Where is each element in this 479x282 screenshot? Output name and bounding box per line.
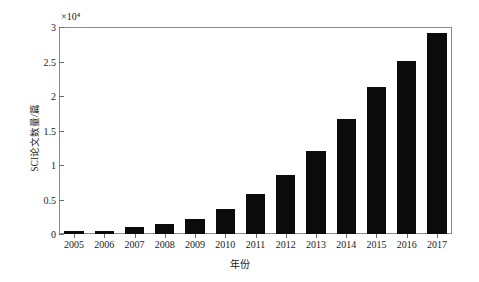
x-axis-tick-mark [104,234,105,238]
y-axis-tick-label: 0 [16,229,56,240]
x-axis-tick-mark [437,234,438,238]
x-axis-tick-mark [225,234,226,238]
bar [155,224,174,234]
x-axis-tick-mark [376,234,377,238]
bar [427,33,446,234]
x-axis-tick-label: 2017 [417,239,457,250]
bar [246,194,265,234]
y-axis-title: SCI论文数量/篇 [27,78,41,198]
bar [397,61,416,234]
chart-figure: ×10⁴ 00.511.522.53 SCI论文数量/篇 年份 20052006… [0,0,479,282]
x-axis-tick-mark [165,234,166,238]
y-axis-tick-label: 3 [16,22,56,33]
bar [306,151,325,234]
bar [276,175,295,234]
x-axis-title: 年份 [0,256,479,271]
x-axis-tick-mark [135,234,136,238]
x-axis-tick-mark [346,234,347,238]
bar [125,227,144,234]
x-axis-tick-mark [407,234,408,238]
x-axis-tick-mark [195,234,196,238]
bar [185,219,204,234]
y-axis-tick-label: 2.5 [16,56,56,67]
bar [216,209,235,234]
x-axis-tick-mark [256,234,257,238]
x-axis-tick-mark [316,234,317,238]
x-axis-tick-mark [286,234,287,238]
y-axis-tick-mark [59,234,64,235]
bar [337,119,356,234]
x-axis-tick-mark [74,234,75,238]
y-axis-multiplier-label: ×10⁴ [61,11,80,22]
bar [367,87,386,234]
